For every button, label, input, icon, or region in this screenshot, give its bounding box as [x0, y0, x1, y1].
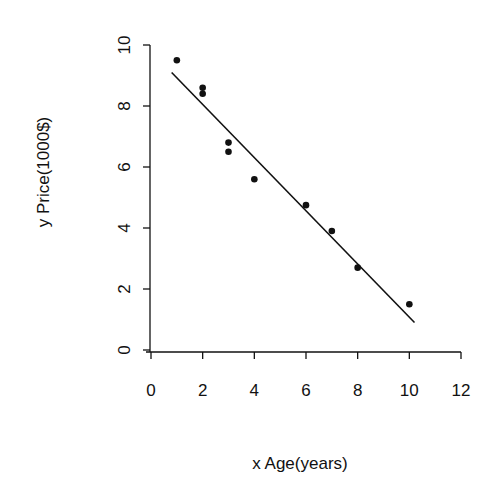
y-tick-label: 8 — [115, 101, 134, 110]
data-point — [354, 264, 361, 271]
x-tick-label: 8 — [353, 381, 362, 400]
data-point — [174, 57, 181, 64]
x-tick-label: 10 — [400, 381, 419, 400]
x-axis: 024681012 — [146, 352, 470, 400]
x-tick-label: 6 — [301, 381, 310, 400]
x-tick-label: 0 — [146, 381, 155, 400]
data-point — [303, 202, 310, 209]
data-point — [225, 148, 232, 155]
x-axis-label: x Age(years) — [252, 454, 347, 473]
scatter-chart: 0246810 024681012 x Age(years) y Price(1… — [0, 0, 500, 489]
regression-line — [172, 72, 415, 322]
data-point — [199, 91, 206, 98]
data-point — [199, 84, 206, 91]
y-tick-label: 10 — [115, 36, 134, 55]
x-tick-label: 12 — [452, 381, 471, 400]
fit-line — [172, 72, 415, 322]
data-point — [406, 301, 413, 308]
y-tick-label: 6 — [115, 162, 134, 171]
y-tick-label: 2 — [115, 284, 134, 293]
data-point — [251, 176, 258, 183]
data-points — [174, 57, 413, 308]
y-tick-label: 0 — [115, 345, 134, 354]
data-point — [329, 228, 336, 235]
x-tick-label: 2 — [198, 381, 207, 400]
x-tick-label: 4 — [250, 381, 259, 400]
y-axis: 0246810 — [115, 36, 151, 355]
data-point — [225, 139, 232, 146]
y-axis-label: y Price(1000$) — [34, 117, 53, 228]
y-tick-label: 4 — [115, 223, 134, 232]
